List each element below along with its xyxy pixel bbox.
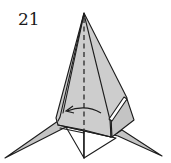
origami-diagram — [0, 0, 171, 163]
left-leg — [5, 121, 66, 158]
right-leg — [114, 130, 162, 156]
